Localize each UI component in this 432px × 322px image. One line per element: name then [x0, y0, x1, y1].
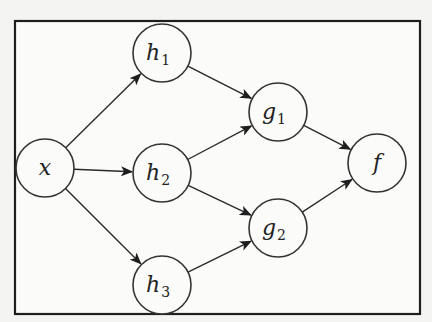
node-g1: g1 [249, 83, 307, 141]
computation-graph: xh1h2h3g1g2f [0, 0, 432, 322]
node-subscript: 2 [277, 227, 286, 243]
node-h3: h3 [133, 256, 191, 314]
node-h1: h1 [133, 24, 191, 82]
node-subscript: 1 [161, 52, 170, 68]
node-g2: g2 [249, 199, 307, 257]
node-f: f [348, 134, 406, 192]
node-label: x [39, 155, 52, 180]
node-subscript: 3 [161, 284, 170, 300]
node-subscript: 2 [161, 172, 170, 188]
node-h2: h2 [133, 144, 191, 202]
node-x: x [16, 139, 74, 197]
node-subscript: 1 [277, 111, 286, 127]
